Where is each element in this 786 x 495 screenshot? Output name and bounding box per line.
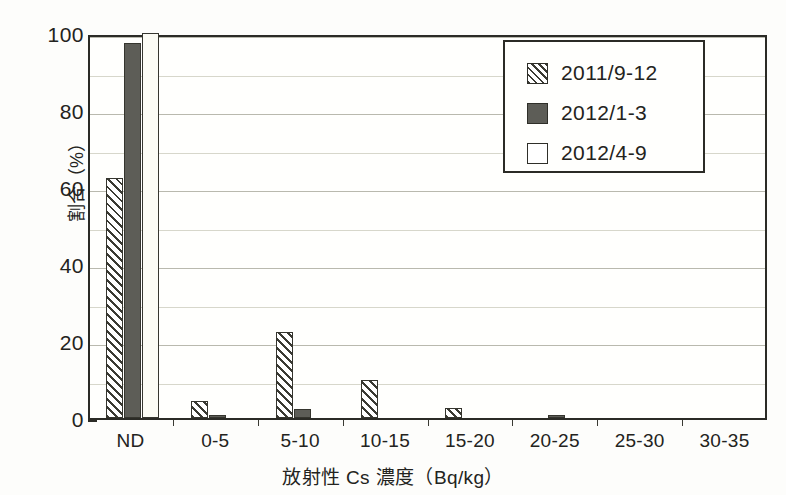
y-axis-tick-label: 100 [20, 24, 84, 45]
x-axis-tick-mark [343, 420, 344, 426]
x-axis-tick-label: 10-15 [360, 430, 410, 452]
chart-legend: 2011/9-122012/1-32012/4-9 [503, 40, 705, 173]
y-axis-tick-label: 40 [20, 255, 84, 276]
legend-swatch-icon [527, 143, 548, 164]
x-axis-tick-label: 5-10 [281, 430, 320, 452]
x-axis-tick-label: 0-5 [201, 430, 229, 452]
gridline-50 [90, 230, 765, 231]
x-axis-title: 放射性 Cs 濃度（Bq/kg） [0, 462, 786, 489]
y-axis-tick-labels: 020406080100 [18, 0, 84, 495]
legend-label: 2012/4-9 [561, 141, 647, 165]
legend-label: 2012/1-3 [561, 101, 647, 125]
y-axis-tick-label: 20 [20, 332, 84, 353]
gridline-100 [90, 37, 765, 38]
x-axis-tick-mark [597, 420, 598, 426]
x-axis-tick-mark [428, 420, 429, 426]
y-axis-tick-label: 60 [20, 178, 84, 199]
x-axis-tick-label: 15-20 [445, 430, 495, 452]
y-axis-tick-mark [88, 420, 97, 422]
y-axis-tick-label: 0 [20, 409, 84, 430]
gridline-20 [90, 345, 765, 346]
legend-item-2012/1-3[interactable]: 2012/1-3 [527, 100, 647, 126]
x-axis-tick-label: 20-25 [530, 430, 580, 452]
x-axis-tick-mark [682, 420, 683, 426]
legend-item-2011/9-12[interactable]: 2011/9-12 [527, 60, 658, 86]
x-axis-tick-mark [258, 420, 259, 426]
x-axis-tick-mark [173, 420, 174, 426]
x-axis-tick-label: ND [116, 430, 144, 452]
x-axis-tick-label: 30-35 [700, 430, 750, 452]
bar-5-10-2011/9-12 [276, 332, 293, 418]
bar-20-25-2012/1-3 [548, 415, 565, 418]
y-axis-tick-label: 80 [20, 101, 84, 122]
gridline-40 [90, 268, 765, 269]
bar-0-5-2011/9-12 [191, 401, 208, 418]
chart-figure: 割合（%） 020406080100 ND0-55-1010-1515-2020… [0, 0, 786, 495]
x-axis-tick-mark [512, 420, 513, 426]
bar-ND-2011/9-12 [106, 178, 123, 418]
legend-item-2012/4-9[interactable]: 2012/4-9 [527, 140, 647, 166]
gridline-30 [90, 307, 765, 308]
legend-swatch-icon [527, 103, 548, 124]
gridline-10 [90, 384, 765, 385]
bar-5-10-2012/1-3 [294, 409, 311, 418]
legend-swatch-icon [527, 63, 548, 84]
x-axis-tick-labels: ND0-55-1010-1515-2020-2525-3030-35 [88, 430, 767, 460]
bar-ND-2012/4-9 [142, 33, 159, 418]
bar-ND-2012/1-3 [124, 43, 141, 418]
bar-0-5-2012/1-3 [209, 415, 226, 418]
legend-label: 2011/9-12 [561, 61, 658, 85]
x-axis-tick-label: 25-30 [615, 430, 665, 452]
bar-15-20-2011/9-12 [445, 408, 462, 418]
gridline-60 [90, 191, 765, 192]
bar-10-15-2011/9-12 [361, 380, 378, 419]
